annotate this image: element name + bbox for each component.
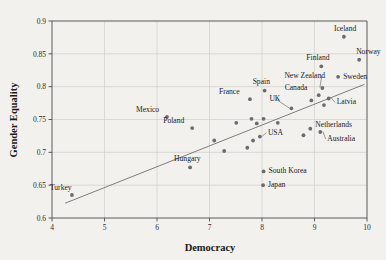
x-tick-label: 6 — [155, 223, 159, 232]
data-point-new-zealand — [320, 86, 324, 90]
data-point — [322, 103, 326, 107]
point-label-japan: Japan — [268, 180, 285, 189]
point-label-poland: Poland — [163, 116, 184, 125]
data-point-sweden — [336, 75, 340, 79]
data-point-spain — [263, 89, 267, 93]
data-point — [234, 121, 238, 125]
point-label-latvia: Latvia — [337, 97, 357, 106]
data-point-netherlands — [308, 127, 312, 131]
data-point — [250, 117, 254, 121]
data-point-canada — [317, 93, 321, 97]
data-point-south-korea — [262, 169, 266, 173]
data-point — [245, 146, 249, 150]
data-point-norway — [357, 58, 361, 62]
x-tick-label: 4 — [50, 223, 54, 232]
data-point-latvia — [327, 97, 331, 101]
point-label-mexico: Mexico — [136, 105, 159, 114]
x-tick-label: 8 — [260, 223, 264, 232]
point-label-france: France — [219, 87, 240, 96]
point-label-netherlands: Netherlands — [315, 120, 352, 129]
y-tick-label: 0.9 — [37, 17, 47, 26]
x-tick-label: 5 — [103, 223, 107, 232]
point-label-uk: UK — [269, 94, 280, 103]
y-tick-label: 0.75 — [33, 115, 46, 124]
point-label-finland: Finland — [306, 53, 329, 62]
y-tick-label: 0.7 — [37, 148, 47, 157]
data-point — [255, 122, 259, 126]
point-label-hungary: Hungary — [174, 154, 201, 163]
y-tick-label: 0.65 — [33, 181, 46, 190]
data-point — [309, 99, 313, 103]
point-label-norway: Norway — [356, 47, 381, 56]
y-tick-label: 0.6 — [37, 214, 47, 223]
y-tick-label: 0.85 — [33, 50, 46, 59]
point-label-usa: USA — [268, 128, 284, 137]
leader-line — [323, 131, 326, 139]
data-point-hungary — [188, 166, 192, 170]
data-point-japan — [261, 183, 265, 187]
scatter-plot: 456789100.60.650.70.750.80.850.9 TurkeyM… — [0, 0, 386, 260]
point-label-sweden: Sweden — [343, 72, 367, 81]
x-axis-title: Democracy — [185, 242, 236, 253]
point-label-south-korea: South Korea — [269, 166, 308, 175]
point-labels: TurkeyMexicoPolandHungaryFranceSpainUKUS… — [50, 24, 381, 192]
data-point — [302, 133, 306, 137]
leader-line — [262, 133, 266, 137]
point-label-turkey: Turkey — [50, 183, 72, 192]
data-point — [251, 139, 255, 143]
x-tick-label: 9 — [313, 223, 317, 232]
point-label-iceland: Iceland — [334, 24, 357, 33]
data-point-uk — [290, 106, 294, 110]
y-tick-label: 0.8 — [37, 82, 47, 91]
point-label-new-zealand: New Zealand — [284, 71, 325, 80]
leader-line — [331, 98, 335, 103]
point-label-spain: Spain — [253, 77, 271, 86]
data-point — [222, 149, 226, 153]
data-point-australia — [318, 130, 322, 134]
data-point — [276, 121, 280, 125]
data-point — [262, 117, 266, 121]
y-axis-title: Gender Equality — [8, 82, 19, 158]
data-point-usa — [258, 135, 262, 139]
data-point-finland — [319, 64, 323, 68]
x-tick-label: 7 — [208, 223, 212, 232]
data-point-iceland — [342, 35, 346, 39]
x-tick-label: 10 — [363, 223, 371, 232]
point-label-canada: Canada — [285, 83, 308, 92]
chart-page: 456789100.60.650.70.750.80.850.9 TurkeyM… — [0, 0, 386, 260]
data-point-poland — [190, 126, 194, 130]
data-point-turkey — [70, 193, 74, 197]
data-point — [212, 139, 216, 143]
data-point-france — [248, 97, 252, 101]
point-label-australia: Australia — [327, 134, 355, 143]
